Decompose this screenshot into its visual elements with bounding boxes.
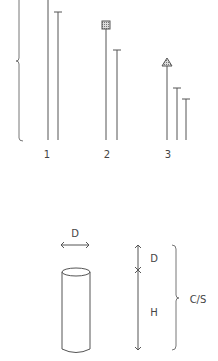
diameter-label: D bbox=[71, 228, 79, 239]
hatched-square-cap-icon bbox=[102, 21, 110, 29]
triangle-cap-icon bbox=[162, 58, 172, 66]
right-brace bbox=[172, 245, 179, 350]
group-label-3: 3 bbox=[165, 149, 171, 160]
diameter-arrow-icon bbox=[61, 242, 89, 248]
group-3 bbox=[162, 58, 190, 140]
group-2 bbox=[102, 21, 121, 140]
height-dimension-arrow-icon bbox=[135, 245, 141, 350]
segment-label-h: H bbox=[150, 307, 158, 318]
brace-label-cs: C/S bbox=[190, 294, 207, 305]
segment-label-d: D bbox=[150, 253, 158, 264]
left-brace bbox=[16, 0, 23, 141]
diagram-canvas: 1 2 3 D D H C/S bbox=[0, 0, 218, 361]
group-label-2: 2 bbox=[104, 149, 110, 160]
cylinder-shape bbox=[62, 268, 90, 353]
group-1 bbox=[48, 0, 62, 140]
group-label-1: 1 bbox=[44, 149, 50, 160]
